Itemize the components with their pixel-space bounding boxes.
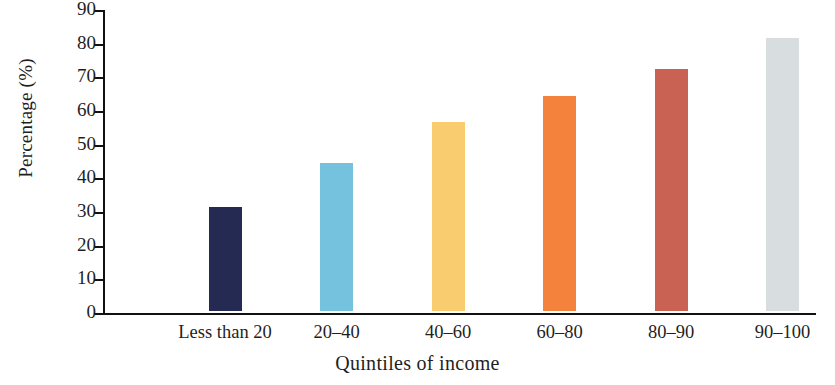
bar [320, 163, 353, 311]
plot-area: 0102030405060708090 Less than 2020–4040–… [103, 10, 816, 313]
y-axis-tick-label: 50 [77, 134, 96, 153]
bar-chart: Percentage (%) 0102030405060708090 Less … [0, 0, 835, 385]
x-axis-tick-label: 80–90 [648, 322, 694, 342]
y-axis-tick-label: 80 [77, 33, 96, 52]
x-axis-tick-label: 40–60 [425, 322, 471, 342]
y-axis-tick-label: 20 [77, 235, 96, 254]
bar [766, 38, 799, 311]
x-axis-tick-label: 90–100 [755, 322, 811, 342]
bar [655, 69, 688, 311]
x-axis-tick-label: 20–40 [313, 322, 359, 342]
bar [432, 122, 465, 311]
y-axis-tick-label: 30 [77, 201, 96, 220]
x-axis-line [103, 313, 816, 315]
x-axis-title: Quintiles of income [0, 352, 835, 375]
y-axis-tick-label: 70 [77, 66, 96, 85]
y-axis-tick-label: 0 [87, 302, 97, 321]
bar [543, 96, 576, 311]
x-axis-tick-label: 60–80 [536, 322, 582, 342]
y-axis-tick-label: 60 [77, 100, 96, 119]
y-axis-tick-label: 40 [77, 167, 96, 186]
y-axis-tick-label: 10 [77, 268, 96, 287]
y-axis-title: Percentage (%) [15, 18, 37, 218]
x-axis-tick-label: Less than 20 [178, 322, 272, 342]
y-axis-line [103, 10, 105, 314]
y-axis-tick-label: 90 [77, 0, 96, 18]
bar [209, 207, 242, 311]
